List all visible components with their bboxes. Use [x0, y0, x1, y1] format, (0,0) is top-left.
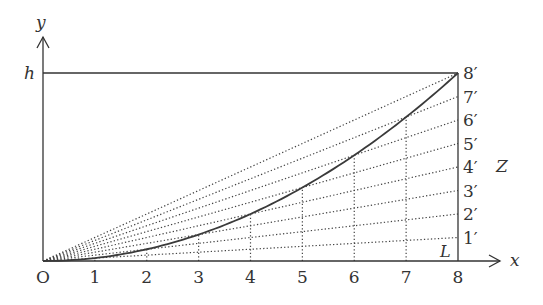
x-tick-label: 2 — [141, 267, 152, 287]
x-tick-label: 3 — [193, 267, 204, 287]
origin-label: O — [36, 267, 50, 287]
x-tick-labels: 12345678 — [89, 267, 463, 287]
x-axis-label: x — [510, 250, 520, 270]
y-division-label: 1′ — [463, 228, 478, 248]
y-division-label: 2′ — [463, 204, 478, 224]
x-tick-label: 7 — [401, 267, 412, 287]
y-division-label: 3′ — [463, 181, 478, 201]
x-tick-label: 8 — [453, 267, 464, 287]
y-division-labels: 1′2′3′4′5′6′7′8′ — [463, 63, 478, 248]
dotted-verticals — [95, 117, 406, 261]
y-division-label: 8′ — [463, 63, 478, 83]
x-tick-label: 5 — [297, 267, 308, 287]
x-tick-label: 1 — [89, 267, 100, 287]
side-label: Z — [495, 156, 509, 176]
x-tick-label: 4 — [245, 267, 256, 287]
y-division-label: 7′ — [463, 87, 478, 107]
y-division-label: 5′ — [463, 134, 478, 154]
length-label: L — [439, 242, 451, 261]
parabola-construction-diagram: y h x O L Z 12345678 1′2′3′4′5′6′7′8′ — [0, 0, 543, 305]
y-division-label: 6′ — [463, 110, 478, 130]
y-axis-label: y — [35, 12, 46, 32]
y-division-label: 4′ — [463, 157, 478, 177]
x-tick-label: 6 — [349, 267, 360, 287]
height-label: h — [24, 63, 35, 83]
